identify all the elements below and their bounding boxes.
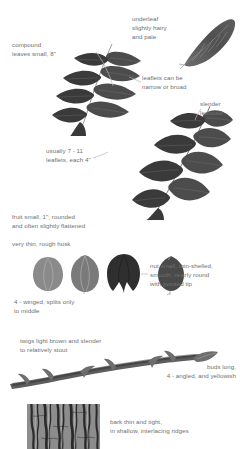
caption-compound-leaves: compound leaves small, 8" xyxy=(12,40,84,58)
caption-winged: 4 - winged, splits only to middle xyxy=(14,297,118,315)
caption-slender-leafstalk: slender leafstalk xyxy=(200,99,240,117)
caption-buds: buds long, 4 - angled, and yellowish xyxy=(130,362,236,380)
identification-plate: underleaf slightly hairy and pale compou… xyxy=(0,0,240,449)
caption-leaflet-count: usually 7 - 11 leaflets, each 4" xyxy=(46,146,122,164)
caption-nut: nut small, thin-shelled, smooth; nearly … xyxy=(150,261,236,289)
caption-leaflets-shape: leaflets can be narrow or broad xyxy=(142,73,222,91)
caption-husk: very thin, rough husk xyxy=(12,239,122,248)
caption-bark: bark thin and tight, in shallow, interla… xyxy=(110,417,236,435)
caption-fruit: fruit small, 1"; rounded and often sligh… xyxy=(12,212,132,230)
caption-underleaf: underleaf slightly hairy and pale xyxy=(132,14,194,42)
caption-twigs: twigs light brown and slender to relativ… xyxy=(20,336,146,354)
